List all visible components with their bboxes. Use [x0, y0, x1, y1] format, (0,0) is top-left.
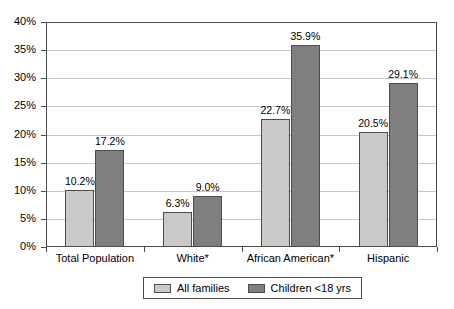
y-axis-tick	[41, 106, 46, 107]
bar-chart: 0%5%10%15%20%25%30%35%40% Total Populati…	[0, 0, 454, 309]
legend-swatch-icon	[154, 284, 171, 293]
x-axis-tick	[437, 247, 438, 252]
y-axis: 0%5%10%15%20%25%30%35%40%	[0, 0, 44, 309]
legend-item: All families	[154, 283, 230, 294]
y-axis-tick	[41, 135, 46, 136]
y-axis-tick	[41, 163, 46, 164]
y-axis-tick-label: 15%	[14, 157, 36, 168]
bar-value-label: 6.3%	[157, 198, 198, 209]
legend-label: All families	[177, 283, 230, 294]
y-axis-tick	[41, 50, 46, 51]
y-axis-tick-label: 35%	[14, 44, 36, 55]
x-axis-category-label: White*	[144, 252, 242, 265]
legend-label: Children <18 yrs	[271, 283, 351, 294]
bar	[95, 150, 124, 247]
x-axis-category-label: African American*	[242, 252, 340, 265]
y-axis-tick-label: 25%	[14, 100, 36, 111]
bar	[359, 132, 388, 247]
bar-value-label: 9.0%	[187, 182, 228, 193]
bar-value-label: 35.9%	[285, 31, 326, 42]
x-axis-category-label: Hispanic	[339, 252, 437, 265]
y-axis-tick-label: 5%	[20, 213, 36, 224]
bar-value-label: 22.7%	[255, 105, 296, 116]
y-axis-tick	[41, 78, 46, 79]
y-axis-tick	[41, 247, 46, 248]
chart-legend: All familiesChildren <18 yrs	[143, 277, 362, 299]
bar-value-label: 29.1%	[383, 69, 424, 80]
y-axis-tick-label: 30%	[14, 72, 36, 83]
bar-value-label: 17.2%	[89, 136, 130, 147]
legend-swatch-icon	[248, 284, 265, 293]
y-axis-tick-label: 20%	[14, 129, 36, 140]
y-axis-tick-label: 10%	[14, 185, 36, 196]
legend-item: Children <18 yrs	[248, 283, 351, 294]
y-axis-tick-label: 0%	[20, 241, 36, 252]
y-axis-tick-label: 40%	[14, 16, 36, 27]
bar-value-label: 20.5%	[353, 118, 394, 129]
bar	[65, 190, 94, 247]
bar	[261, 119, 290, 247]
bar	[389, 83, 418, 247]
bar	[291, 45, 320, 247]
y-axis-tick	[41, 191, 46, 192]
y-axis-tick	[41, 22, 46, 23]
y-axis-tick	[41, 219, 46, 220]
x-axis-category-label: Total Population	[46, 252, 144, 265]
bar	[163, 212, 192, 247]
bar-value-label: 10.2%	[59, 176, 100, 187]
